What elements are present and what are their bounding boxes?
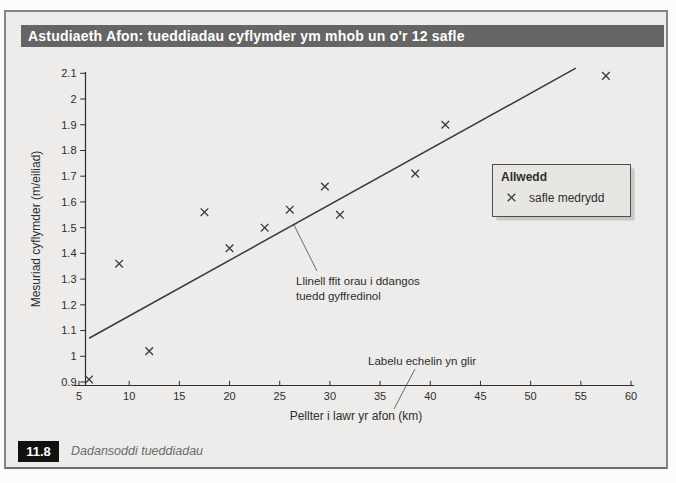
x-axis-ticks: 51015202530354045505560 [76, 381, 637, 402]
y-tick-label: 1.9 [61, 119, 76, 131]
axis-note-leader-line [394, 369, 415, 409]
x-tick-label: 35 [374, 390, 386, 402]
y-tick-label: 1.5 [61, 222, 76, 234]
data-point-marker [201, 208, 209, 216]
data-point-marker [261, 224, 269, 232]
data-point-marker [336, 211, 344, 219]
data-point-marker [602, 72, 610, 80]
y-tick-label: 1.3 [61, 273, 76, 285]
x-tick-label: 25 [274, 390, 286, 402]
x-tick-label: 50 [525, 390, 537, 402]
best-fit-annotation-line2: tuedd gyffredinol [296, 290, 381, 302]
y-tick-label: 1.4 [61, 247, 76, 259]
y-tick-label: 1.8 [61, 144, 76, 156]
figure-page: Astudiaeth Afon: tueddiadau cyflymder ym… [0, 0, 676, 483]
x-tick-label: 40 [424, 390, 436, 402]
figure-caption: Dadansoddi tueddiadau [71, 444, 203, 458]
y-tick-label: 2 [70, 93, 76, 105]
best-fit-annotation-line1: Llinell ffit orau i ddangos [296, 275, 420, 287]
y-tick-label: 1 [70, 350, 76, 362]
best-fit-leader-line [294, 225, 317, 271]
y-axis-title: Mesuriad cyflymder (m/eiliad) [29, 151, 43, 308]
y-tick-label: 0.9 [61, 376, 76, 388]
data-point-marker [442, 121, 450, 129]
data-points [85, 72, 609, 383]
x-axis-title: Pellter i lawr yr afon (km) [290, 409, 423, 423]
legend-title: Allwedd [501, 170, 547, 184]
x-tick-label: 30 [324, 390, 336, 402]
y-tick-label: 1.6 [61, 196, 76, 208]
x-tick-label: 20 [223, 390, 235, 402]
y-tick-label: 1.1 [61, 324, 76, 336]
legend-item-label: safle medrydd [529, 191, 604, 205]
x-tick-label: 55 [575, 390, 587, 402]
figure-number-badge: 11.8 [18, 441, 59, 462]
y-axis-ticks: 0.911.11.21.31.41.51.61.71.81.922.1 [61, 67, 85, 388]
data-point-marker [321, 183, 329, 191]
data-point-marker [85, 376, 93, 384]
x-tick-label: 5 [76, 390, 82, 402]
data-point-marker [286, 206, 294, 214]
data-point-marker [411, 170, 419, 178]
figure-number: 11.8 [26, 444, 51, 459]
y-tick-label: 2.1 [61, 67, 76, 79]
data-point-marker [226, 244, 234, 252]
y-tick-label: 1.2 [61, 299, 76, 311]
x-tick-label: 60 [625, 390, 637, 402]
data-point-marker [115, 260, 123, 268]
x-tick-label: 45 [474, 390, 486, 402]
axis-note-annotation: Labelu echelin yn glir [368, 355, 476, 367]
scatter-chart: 51015202530354045505560 0.911.11.21.31.4… [0, 0, 676, 483]
x-tick-label: 10 [123, 390, 135, 402]
y-tick-label: 1.7 [61, 170, 76, 182]
x-tick-label: 15 [173, 390, 185, 402]
legend: Allwedd safle medrydd [493, 165, 635, 221]
data-point-marker [145, 347, 153, 355]
